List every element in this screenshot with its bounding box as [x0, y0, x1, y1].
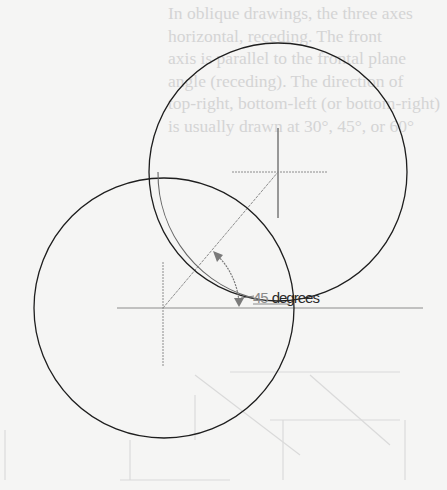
angle-label-unit: degrees: [272, 289, 320, 306]
arrowhead-up-icon: [213, 251, 223, 262]
hidden-arc: [158, 172, 262, 300]
oblique-circle-diagram: 45degrees: [0, 0, 447, 490]
angle-arc: [216, 254, 239, 302]
bleed-through-geometry: [5, 372, 405, 480]
diagram-page: In oblique drawings, the three axes hori…: [0, 0, 447, 490]
angle-dimension: [213, 251, 254, 307]
angle-label-number: 45: [253, 289, 268, 306]
angle-label: 45degrees: [253, 289, 319, 306]
centerlines: [117, 128, 423, 367]
arrowhead-down-icon: [234, 298, 244, 307]
